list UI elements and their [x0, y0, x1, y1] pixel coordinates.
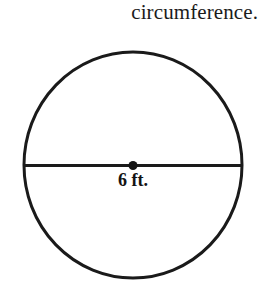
circle-diagram: 6 ft. [0, 0, 264, 282]
figure-page: circumference. 6 ft. [0, 0, 264, 282]
circle-diagram-svg [0, 0, 264, 282]
diameter-label: 6 ft. [73, 170, 193, 190]
center-point-dot [129, 161, 138, 170]
